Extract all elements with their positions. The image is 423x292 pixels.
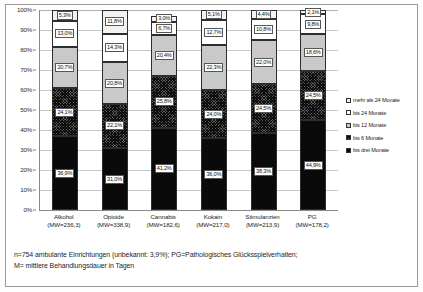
bar-segment[interactable]: 13,0% — [52, 21, 78, 47]
y-axis-tick-label: 50% — [20, 107, 32, 113]
bar-segment[interactable]: 31,0% — [102, 148, 128, 210]
y-axis-tick-label: 0% — [23, 207, 32, 213]
bar-segment-value-label: 20,4% — [155, 51, 174, 60]
y-axis-tick-mark — [33, 90, 36, 91]
bar-segment-value-label: 6,7% — [156, 24, 172, 33]
y-axis-tick-label: 70% — [20, 67, 32, 73]
y-axis-tick-mark — [33, 110, 36, 111]
x-axis-category-mean: (MW=178,2) — [287, 221, 337, 229]
bar-segment[interactable]: 20,8% — [102, 62, 128, 104]
x-axis-category-name: Cannabis — [138, 213, 188, 221]
y-axis-tick-mark — [33, 70, 36, 71]
bars-layer: 36,9%24,1%20,7%13,0%5,3%31,0%22,1%20,8%1… — [40, 10, 338, 210]
bar-segment[interactable]: 24,5% — [300, 71, 326, 120]
bar-segment-value-label: 36,9% — [55, 169, 74, 178]
bar-segment[interactable]: 10,8% — [251, 19, 277, 41]
bar-segment[interactable]: 9,8% — [300, 14, 326, 34]
y-axis-tick-label: 30% — [20, 147, 32, 153]
x-axis-category: Stimulanzien(MW=213,9) — [238, 213, 288, 230]
legend-swatch-icon — [346, 110, 351, 115]
bar-stack[interactable]: 38,3%24,5%22,0%10,8%4,4% — [251, 10, 277, 210]
bar-segment[interactable]: 24,0% — [201, 90, 227, 138]
legend-item[interactable]: bis 6 Monate — [346, 133, 420, 143]
bar-segment[interactable]: 24,1% — [52, 88, 78, 136]
bar-segment-value-label: 20,8% — [105, 79, 124, 88]
y-axis-tick-label: 100% — [17, 7, 32, 13]
bar-segment-value-label: 38,3% — [254, 167, 273, 176]
bar-segment-value-label: 24,1% — [55, 108, 74, 117]
bar-segment[interactable]: 11,8% — [102, 10, 128, 34]
bar-stack[interactable]: 36,0%24,0%22,3%12,7%5,1% — [201, 10, 227, 210]
bar-segment[interactable]: 12,7% — [201, 20, 227, 45]
bar-segment[interactable]: 38,3% — [251, 133, 277, 210]
figure-container: 0%10%20%30%40%50%60%70%80%90%100% 36,9%2… — [0, 0, 423, 292]
x-axis-category: Opioide(MW=338,9) — [89, 213, 139, 230]
legend-item[interactable]: mehr als 24 Monate — [346, 95, 420, 105]
y-axis-tick-mark — [33, 210, 36, 211]
bar-stack[interactable]: 44,9%24,5%18,6%9,8%2,1% — [300, 10, 326, 210]
bar-segment-value-label: 9,8% — [305, 20, 321, 29]
bar-segment-value-label: 25,8% — [155, 97, 174, 106]
y-axis-tick-mark — [33, 130, 36, 131]
bar-segment[interactable]: 4,4% — [251, 10, 277, 19]
x-axis-category-name: Stimulanzien — [238, 213, 288, 221]
y-axis-tick-label: 80% — [20, 47, 32, 53]
bar-stack[interactable]: 41,2%25,8%20,4%6,7%3,0% — [151, 10, 177, 210]
x-axis-category-name: Opioide — [89, 213, 139, 221]
bar-segment[interactable]: 2,1% — [300, 10, 326, 14]
y-axis-tick-mark — [33, 10, 36, 11]
bar-segment[interactable]: 41,2% — [151, 128, 177, 210]
bar-segment-value-label: 10,8% — [254, 25, 273, 34]
bar-segment[interactable]: 20,7% — [52, 47, 78, 88]
bar-segment[interactable]: 25,8% — [151, 76, 177, 128]
legend-item-label: bis drei Monate — [353, 147, 389, 153]
bar-segment[interactable]: 44,9% — [300, 120, 326, 210]
bar-stack[interactable]: 36,9%24,1%20,7%13,0%5,3% — [52, 10, 78, 210]
bar-segment-value-label: 22,3% — [204, 63, 223, 72]
bar-segment[interactable]: 5,1% — [201, 10, 227, 20]
y-axis-tick-label: 90% — [20, 27, 32, 33]
legend-item[interactable]: bis 24 Monate — [346, 108, 420, 118]
footnote: n=754 ambulante Einrichtungen (unbekannt… — [14, 250, 409, 271]
footnote-line-1: n=754 ambulante Einrichtungen (unbekannt… — [14, 250, 409, 261]
y-axis-tick-mark — [33, 150, 36, 151]
y-axis-tick-label: 60% — [20, 87, 32, 93]
bar-stack[interactable]: 31,0%22,1%20,8%14,3%11,8% — [102, 10, 128, 210]
x-axis-category-mean: (MW=182,6) — [138, 221, 188, 229]
bar-segment[interactable]: 22,3% — [201, 45, 227, 90]
bar-segment-value-label: 11,8% — [105, 17, 123, 26]
bar-segment-value-label: 36,0% — [204, 170, 223, 179]
bar-segment-value-label: 24,0% — [204, 110, 223, 119]
bar-segment[interactable]: 6,7% — [151, 22, 177, 35]
bar-segment[interactable]: 36,9% — [52, 136, 78, 210]
bar-segment[interactable]: 24,5% — [251, 84, 277, 133]
x-axis-category-mean: (MW=213,9) — [238, 221, 288, 229]
legend-swatch-icon — [346, 123, 351, 128]
legend-swatch-icon — [346, 148, 351, 153]
bar-segment-value-label: 24,5% — [304, 91, 323, 100]
bar-segment[interactable]: 20,4% — [151, 35, 177, 76]
y-axis-tick-mark — [33, 170, 36, 171]
legend-swatch-icon — [346, 135, 351, 140]
legend-item-label: bis 24 Monate — [353, 110, 386, 116]
bar-segment[interactable]: 22,0% — [251, 40, 277, 84]
legend-item[interactable]: bis 12 Monate — [346, 120, 420, 130]
bar-segment[interactable]: 22,1% — [102, 104, 128, 148]
plot-area: 0%10%20%30%40%50%60%70%80%90%100% 36,9%2… — [10, 10, 340, 228]
plot-grid: 36,9%24,1%20,7%13,0%5,3%31,0%22,1%20,8%1… — [39, 10, 338, 211]
bar-segment[interactable]: 14,3% — [102, 34, 128, 63]
bar-segment-value-label: 12,7% — [204, 28, 223, 37]
bar-segment[interactable]: 18,6% — [300, 34, 326, 71]
bar-segment[interactable]: 36,0% — [201, 138, 227, 210]
y-axis-tick-mark — [33, 30, 36, 31]
bar-segment-value-label: 22,0% — [254, 58, 273, 67]
bar-segment-value-label: 24,5% — [254, 104, 273, 113]
bar-segment[interactable]: 5,3% — [52, 10, 78, 21]
bar-segment-value-label: 13,0% — [55, 29, 74, 38]
chart-legend: mehr als 24 Monatebis 24 Monatebis 12 Mo… — [346, 95, 420, 158]
legend-item[interactable]: bis drei Monate — [346, 145, 420, 155]
x-axis-category-name: Kokain — [188, 213, 238, 221]
bar-segment[interactable]: 3,0% — [151, 16, 177, 22]
legend-swatch-icon — [346, 98, 351, 103]
bar-segment-value-label: 2,1% — [305, 8, 321, 17]
